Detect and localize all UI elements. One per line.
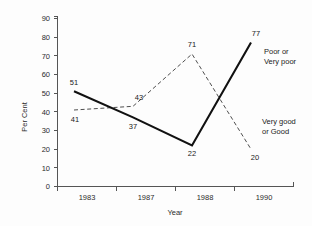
x-tick-label-1987: 1987 <box>138 193 155 202</box>
y-tick-label-70: 70 <box>42 52 50 61</box>
legend-very-good-or-good: Very good or Good <box>262 117 296 136</box>
legend-poor-line1: Poor or <box>264 47 289 56</box>
y-tick-label-30: 30 <box>42 126 50 135</box>
y-tick-label-10: 10 <box>42 164 50 173</box>
point-label-solid-1987: 37 <box>129 122 137 131</box>
point-label-solid-1983: 51 <box>70 78 78 87</box>
x-tick-label-1988: 1988 <box>197 193 214 202</box>
legend-good-line1: Very good <box>262 117 296 126</box>
y-tick-label-50: 50 <box>42 89 50 98</box>
point-label-solid-1990: 77 <box>252 29 260 38</box>
x-axis-title: Year <box>167 208 183 217</box>
x-tick-labels: 1983 1987 1988 1990 <box>79 193 273 202</box>
y-tick-label-60: 60 <box>42 70 50 79</box>
legend-good-line2: or Good <box>262 127 289 136</box>
line-chart: 0 10 20 30 40 50 60 70 80 90 Per Cent 19… <box>0 0 312 226</box>
point-label-dashed-1983: 41 <box>71 115 79 124</box>
legend-poor-or-very-poor: Poor or Very poor <box>264 47 297 66</box>
y-axis-title: Per Cent <box>20 101 29 132</box>
y-tick-label-20: 20 <box>42 145 50 154</box>
point-label-dashed-1987: 43 <box>135 93 143 102</box>
series-line-very-good-or-good <box>74 54 251 149</box>
chart-container: 0 10 20 30 40 50 60 70 80 90 Per Cent 19… <box>0 0 312 226</box>
y-tick-label-90: 90 <box>42 14 50 23</box>
point-label-dashed-1988: 71 <box>188 40 196 49</box>
series-line-poor-or-very-poor <box>74 43 251 146</box>
y-tick-label-80: 80 <box>42 33 50 42</box>
point-label-dashed-1990: 20 <box>251 153 259 162</box>
x-tick-label-1983: 1983 <box>79 193 96 202</box>
legend-poor-line2: Very poor <box>264 57 297 66</box>
y-tick-labels: 0 10 20 30 40 50 60 70 80 90 <box>42 14 50 191</box>
y-tick-label-0: 0 <box>46 182 50 191</box>
point-label-solid-1988: 22 <box>188 149 196 158</box>
x-tick-marks <box>58 187 235 192</box>
y-tick-label-40: 40 <box>42 108 50 117</box>
point-value-labels: 51 37 22 77 41 43 71 20 <box>70 29 260 162</box>
x-tick-label-1990: 1990 <box>256 193 273 202</box>
y-tick-marks <box>54 19 58 187</box>
